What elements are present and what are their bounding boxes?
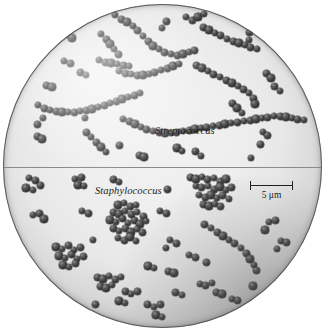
bacterial-cell (277, 88, 284, 95)
bacterial-cell (248, 155, 255, 162)
bacterial-cell (274, 246, 281, 253)
bacterial-cell (68, 34, 75, 41)
bacterial-cell (159, 25, 166, 32)
bacterial-cell (218, 290, 225, 297)
bacterial-cell (140, 153, 147, 160)
bacterial-cell (103, 149, 110, 156)
bacterial-cell (143, 218, 150, 225)
bacterial-cell (134, 288, 141, 295)
bacterial-cell (82, 115, 89, 122)
bacterial-cell (201, 11, 208, 18)
bacterial-cell (217, 203, 224, 210)
bacterial-cell (139, 229, 146, 236)
bacterial-cell (251, 100, 258, 107)
micrograph-figure: Streptococcus Staphylococcus 5 μm (0, 0, 325, 336)
bacterial-cell (122, 300, 129, 307)
bacterial-cell (170, 269, 177, 276)
bacterial-cell (257, 141, 264, 148)
bacterial-cell (163, 210, 170, 217)
bacterial-cell (249, 282, 256, 289)
bacterial-cell (226, 196, 233, 203)
bacterial-cell (301, 117, 308, 124)
label-streptococcus: Streptococcus (155, 125, 215, 136)
bacterial-cell (272, 217, 279, 224)
bacterial-cell (283, 239, 290, 246)
bacterial-cell (118, 274, 125, 281)
bacterial-cell (37, 182, 44, 189)
bacterial-cell (78, 174, 85, 181)
bacterial-cell (261, 226, 268, 233)
bacterial-cell (267, 74, 274, 81)
bacterial-cell (151, 265, 158, 272)
bacterial-cell (222, 175, 229, 182)
bacterial-cell (253, 267, 260, 274)
bacterial-cell (67, 60, 74, 67)
bacterial-cell (264, 132, 271, 139)
bacterial-cell (133, 202, 140, 209)
bacterial-cell (203, 259, 210, 266)
field-divider-line (3, 167, 322, 168)
bacterial-cell (81, 183, 88, 190)
bacterial-cell (239, 110, 246, 117)
bacterial-cell (80, 253, 87, 260)
bacterial-cell (198, 153, 205, 160)
bacterial-cell (157, 301, 164, 308)
bacterial-cell (246, 29, 253, 36)
bacterial-cell (192, 254, 199, 261)
bacterial-cell (228, 184, 235, 191)
bacterial-cell (176, 61, 183, 68)
bacterial-cell (248, 15, 255, 22)
bacterial-cell (159, 314, 166, 321)
bacterial-cell (173, 240, 180, 247)
scale-bar-tick-left (250, 181, 251, 190)
bacterial-cell (137, 90, 144, 97)
bacterial-cell (92, 301, 99, 308)
bacterial-cell (30, 187, 37, 194)
scale-bar-label: 5 μm (250, 190, 293, 200)
bacterial-cell (209, 280, 216, 287)
bacterial-cell (179, 148, 186, 155)
bacterial-cell (115, 51, 122, 58)
bacterial-cell (164, 186, 171, 193)
bacterial-cell (163, 18, 170, 25)
bacterial-cell (72, 260, 79, 267)
label-staphylococcus: Staphylococcus (95, 185, 162, 196)
bacterial-cell (116, 142, 123, 149)
bacterial-cell (40, 115, 47, 122)
scale-bar-tick-right (292, 181, 293, 190)
bacterial-cell (34, 121, 41, 128)
bacterial-cell (191, 47, 198, 54)
bacterial-cell (133, 238, 140, 245)
bacterial-cell (85, 210, 92, 217)
bacterial-cell (40, 215, 47, 222)
bacterial-cell (109, 282, 116, 289)
bacterial-cell (38, 135, 45, 142)
microscope-field (3, 4, 322, 328)
bacterial-cell (90, 237, 97, 244)
bacterial-cell (254, 46, 261, 53)
scale-bar (250, 181, 293, 190)
bacterial-cell (163, 245, 170, 252)
bacterial-cell (126, 63, 133, 70)
bacterial-cell (179, 292, 186, 299)
bacterial-cell (48, 83, 55, 90)
bacterial-cell (234, 297, 241, 304)
bacterial-cell (77, 244, 84, 251)
bacterial-cell (83, 72, 90, 79)
bacterial-cell (22, 184, 29, 191)
scale-bar-line (250, 185, 293, 186)
